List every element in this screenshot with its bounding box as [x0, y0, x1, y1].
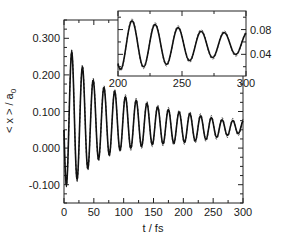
x-tick-labels: 050100150200250300 [61, 206, 252, 218]
y-tick-label: 0.000 [32, 142, 60, 154]
inset-y-tick-label: 0.08 [250, 24, 271, 36]
x-axis-label: t / fs [143, 222, 164, 234]
x-tick-label: 300 [234, 206, 252, 218]
y-tick-label: 0.200 [32, 69, 60, 81]
inset-y-tick-labels: 0.040.08 [250, 24, 271, 61]
y-tick-label: 0.300 [32, 32, 60, 44]
x-tick-label: 200 [174, 206, 192, 218]
y-tick-label: -0.100 [29, 179, 60, 191]
x-tick-label: 0 [61, 206, 67, 218]
inset-y-tick-label: 0.04 [250, 48, 271, 60]
inset-x-tick-label: 300 [237, 77, 255, 89]
x-tick-label: 100 [114, 206, 132, 218]
inset-plot-area: 200250300 0.040.08 [109, 11, 272, 89]
y-axis-label: < x > / a0 [3, 88, 18, 133]
y-tick-label: 0.100 [32, 106, 60, 118]
x-tick-label: 150 [144, 206, 162, 218]
inset-x-tick-label: 200 [109, 77, 127, 89]
chart: 050100150200250300 -0.1000.0000.1000.200… [0, 0, 285, 239]
inset-x-tick-label: 250 [173, 77, 191, 89]
x-tick-label: 250 [204, 206, 222, 218]
x-tick-label: 50 [88, 206, 100, 218]
y-tick-labels: -0.1000.0000.1000.2000.300 [29, 32, 60, 190]
inset-x-tick-labels: 200250300 [109, 77, 255, 89]
